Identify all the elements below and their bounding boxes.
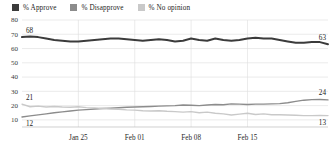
y-tick-label: 60 — [11, 45, 19, 53]
legend-item-disapprove[interactable]: % Disapprove — [70, 4, 123, 12]
series-end-label: 24 — [319, 89, 327, 97]
y-tick-label: 20 — [11, 102, 19, 110]
legend-label-disapprove: % Disapprove — [81, 4, 123, 12]
legend-label-no-opinion: % No opinion — [149, 4, 191, 12]
y-tick-label: 50 — [11, 59, 19, 67]
y-tick-label: 10 — [11, 116, 19, 124]
series-end-label: 13 — [319, 119, 327, 127]
y-tick-label: 80 — [11, 16, 19, 24]
series-end-label: 63 — [319, 34, 327, 42]
y-gridlines — [22, 20, 328, 120]
y-axis-tick-labels: 1020304050607080 — [11, 16, 19, 124]
legend-swatch-icon — [70, 4, 77, 11]
legend-label-approve: % Approve — [23, 4, 56, 12]
series-line — [22, 36, 328, 44]
y-tick-label: 30 — [11, 88, 19, 96]
legend-item-no-opinion[interactable]: % No opinion — [138, 4, 191, 12]
legend-swatch-icon — [138, 4, 145, 11]
chart-svg: 1020304050607080 686312242113 Jan 25Feb … — [0, 14, 330, 156]
x-tick-label: Feb 01 — [125, 134, 145, 142]
chart-legend: % Approve % Disapprove % No opinion — [12, 1, 204, 14]
x-tick-label: Feb 15 — [238, 134, 258, 142]
x-tick-label: Jan 25 — [69, 134, 88, 142]
legend-item-approve[interactable]: % Approve — [12, 4, 56, 12]
plot-area: 1020304050607080 686312242113 Jan 25Feb … — [0, 14, 330, 156]
legend-swatch-icon — [12, 4, 19, 11]
x-axis-tick-labels: Jan 25Feb 01Feb 08Feb 15 — [69, 134, 258, 142]
y-tick-label: 70 — [11, 31, 19, 39]
poll-trend-chart: % Approve % Disapprove % No opinion 1020… — [0, 0, 330, 156]
series-start-label: 21 — [26, 94, 34, 102]
x-tick-label: Feb 08 — [181, 134, 201, 142]
series-start-label: 68 — [26, 27, 34, 35]
y-tick-label: 40 — [11, 73, 19, 81]
